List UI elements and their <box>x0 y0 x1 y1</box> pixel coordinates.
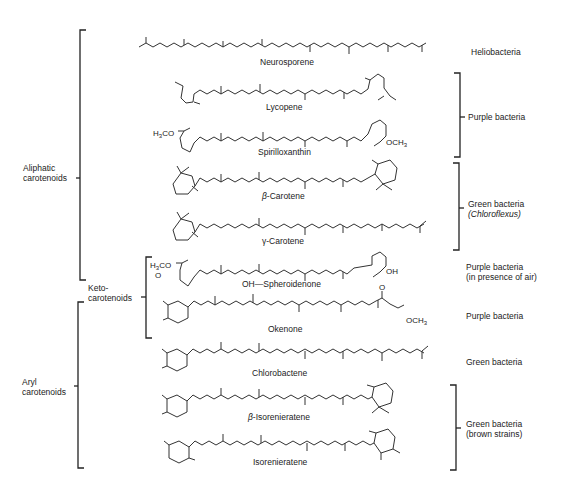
h3co-substituent: H3CO <box>153 129 174 139</box>
och3-substituent-2: OCH3 <box>406 316 428 326</box>
oh-spheroidenone-structure: H3CO O OH <box>150 252 398 286</box>
spirilloxanthin-structure: H3CO OCH3 <box>153 120 408 152</box>
green-chloroflexus-bracket <box>453 163 464 250</box>
oh-substituent: OH <box>386 267 398 276</box>
okenone-structure: O OCH3 <box>163 283 428 326</box>
o-substituent: O <box>155 271 161 280</box>
aryl-bracket <box>74 302 84 468</box>
beta-isorenieratene-structure <box>162 383 393 417</box>
och3-substituent: OCH3 <box>386 138 408 148</box>
chlorobactene-structure <box>162 342 428 371</box>
isorenieratene-structure <box>164 429 400 463</box>
green-brown-strains-bracket <box>450 385 461 470</box>
purple-bacteria-bracket <box>454 73 465 157</box>
structures-canvas: H3CO OCH3 <box>0 0 567 491</box>
ketone-o: O <box>379 283 385 292</box>
aliphatic-bracket <box>76 30 86 280</box>
neurosporene-structure <box>139 37 426 54</box>
h3co-substituent-2: H3CO <box>150 261 171 271</box>
gamma-carotene-structure <box>173 212 426 240</box>
beta-carotene-structure <box>173 160 397 194</box>
lycopene-structure <box>175 74 396 104</box>
